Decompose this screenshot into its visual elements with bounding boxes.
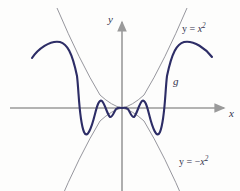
lower-envelope-label-prefix: y = −: [179, 156, 200, 167]
y-axis-label: y: [108, 14, 113, 25]
upper-envelope-label-prefix: y =: [182, 23, 198, 34]
x-axis-label: x: [229, 108, 234, 119]
upper-envelope-label-exponent: 2: [202, 22, 206, 30]
upper-envelope-label: y = x2: [182, 23, 206, 34]
squeeze-theorem-figure: y x g y = x2 y = −x2: [0, 0, 240, 191]
curve-g-label: g: [173, 76, 179, 87]
lower-envelope-label: y = −x2: [179, 156, 208, 167]
lower-envelope-label-exponent: 2: [205, 155, 209, 163]
